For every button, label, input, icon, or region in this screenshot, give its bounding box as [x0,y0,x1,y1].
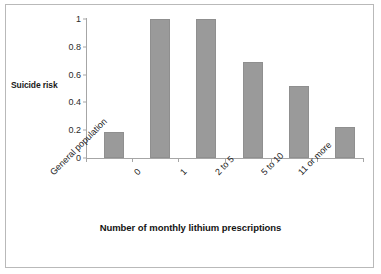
bar-1[interactable] [196,19,216,158]
y-tick-label-2: 0.4 [68,97,81,107]
x-axis-title: Number of monthly lithium prescriptions [0,222,381,233]
x-tick-mark-0 [86,158,87,162]
x-tick-mark-1 [132,158,133,162]
chart-figure: Suicide risk 0 0.2 0.4 0.6 0.8 1 [0,0,381,274]
x-tick-mark-2 [178,158,179,162]
y-tick-label-3: 0.6 [68,70,81,80]
bar-11-or-more[interactable] [335,127,355,158]
bar-general-population[interactable] [104,132,124,158]
y-tick-label-5: 1 [76,14,81,24]
bar-0[interactable] [150,19,170,158]
y-tick-label-4: 0.8 [68,42,81,52]
y-tick-label-1: 0.2 [68,125,81,135]
y-axis-ticks: 0 0.2 0.4 0.6 0.8 1 [0,19,86,158]
x-tick-mark-6 [363,158,364,162]
plot-area [86,19,364,158]
bar-2-to-5[interactable] [243,62,263,158]
bar-5-to-10[interactable] [289,86,309,158]
